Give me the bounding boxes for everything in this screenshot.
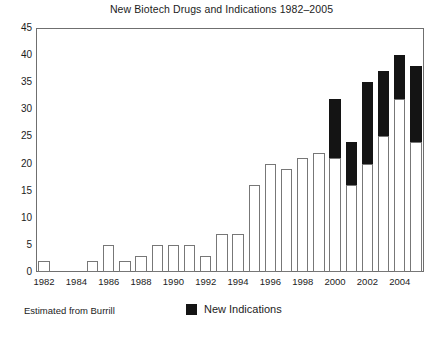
bar-segment-new-drugs [119,261,130,272]
chart-figure: New Biotech Drugs and Indications 1982–2… [0,0,443,342]
y-tick-label: 35 [0,77,32,87]
x-tick-label: 1992 [195,276,216,288]
y-tick-label: 40 [0,50,32,60]
bar-group [410,66,421,272]
bar-segment-new-drugs [249,185,260,272]
bar-segment-new-drugs [410,142,421,272]
bar-group [216,234,227,272]
bar-segment-new-drugs [346,185,357,272]
y-tick-label: 15 [0,186,32,196]
bar-group [232,234,243,272]
y-tick-label: 0 [0,267,32,277]
bar-segment-new-drugs [168,245,179,272]
x-tick-label: 1996 [260,276,281,288]
x-tick-label: 1982 [34,276,55,288]
bar-segment-new-drugs [232,234,243,272]
bar-group [362,82,373,272]
x-tick-label: 2002 [357,276,378,288]
bar-group [313,153,324,272]
y-tick-label: 5 [0,240,32,250]
y-tick-label: 30 [0,104,32,114]
x-axis: 1982198419861988199019921994199619982000… [36,276,424,292]
bar-segment-new-indications [378,71,389,136]
bar-group [87,261,98,272]
source-note: Estimated from Burrill [24,305,115,317]
bar-group [38,261,49,272]
bar-group [168,245,179,272]
x-tick-label: 1988 [131,276,152,288]
bar-group [265,164,276,272]
bar-group [184,245,195,272]
bar-segment-new-indications [362,82,373,163]
bar-group [135,256,146,272]
bar-group [152,245,163,272]
bar-group [249,185,260,272]
bar-segment-new-drugs [313,153,324,272]
y-axis: 051015202530354045 [0,28,32,272]
bar-segment-new-drugs [329,158,340,272]
bar-group [103,245,114,272]
bar-group [297,158,308,272]
y-tick-label: 25 [0,131,32,141]
x-tick-label: 1994 [228,276,249,288]
bar-group [281,169,292,272]
bar-segment-new-drugs [394,99,405,273]
bar-group [119,261,130,272]
bar-segment-new-drugs [362,164,373,272]
bar-segment-new-drugs [135,256,146,272]
bar-segment-new-drugs [152,245,163,272]
bar-group [378,71,389,272]
x-tick-label: 2004 [389,276,410,288]
bar-segment-new-indications [410,66,421,142]
x-tick-label: 2000 [325,276,346,288]
x-tick-label: 1990 [163,276,184,288]
bar-segment-new-drugs [378,136,389,272]
x-tick-label: 1984 [66,276,87,288]
bar-group [346,142,357,272]
bar-segment-new-drugs [281,169,292,272]
legend-swatch-new-indications [186,304,197,315]
y-tick-label: 20 [0,159,32,169]
x-tick-label: 1998 [292,276,313,288]
bar-group [200,256,211,272]
legend-label-new-indications: New Indications [204,303,282,316]
bar-segment-new-drugs [297,158,308,272]
bar-segment-new-indications [329,99,340,159]
bar-segment-new-drugs [38,261,49,272]
bar-segment-new-indications [346,142,357,185]
bars-layer [36,28,424,272]
chart-title: New Biotech Drugs and Indications 1982–2… [0,3,443,16]
bar-segment-new-drugs [265,164,276,272]
bar-group [329,99,340,273]
bar-segment-new-drugs [103,245,114,272]
bar-segment-new-drugs [200,256,211,272]
chart-legend: New Indications [186,303,282,316]
caption-partial [22,333,422,342]
y-tick-label: 10 [0,213,32,223]
bar-segment-new-drugs [184,245,195,272]
bar-segment-new-drugs [216,234,227,272]
bar-segment-new-drugs [87,261,98,272]
bar-group [394,55,405,272]
x-tick-label: 1986 [98,276,119,288]
y-tick-label: 45 [0,23,32,33]
bar-segment-new-indications [394,55,405,98]
